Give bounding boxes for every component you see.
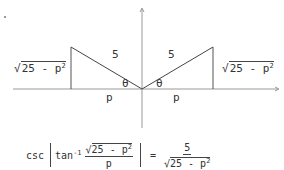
csc-function: csc xyxy=(26,150,44,161)
left-angle-label: θ xyxy=(122,78,129,90)
right-base-label: p xyxy=(173,92,180,104)
result-denominator: √25 - p2 xyxy=(164,155,210,169)
radicand: 25 - p xyxy=(22,62,62,75)
exponent: 2 xyxy=(269,62,273,70)
radicand: 25 - p xyxy=(92,144,128,155)
abs-bar-right xyxy=(140,143,141,167)
exponent: 2 xyxy=(128,143,132,151)
equals-sign: = xyxy=(150,150,156,161)
abs-bar-left xyxy=(50,143,51,167)
exponent: 2 xyxy=(206,157,210,165)
inner-denominator: p xyxy=(106,157,112,169)
exponent: 2 xyxy=(61,62,65,70)
left-height-label: √25 - p2 xyxy=(14,60,66,75)
left-base-label: p xyxy=(106,92,113,104)
inner-numerator: √25 - p2 xyxy=(85,142,133,157)
right-triangle-hypotenuse xyxy=(142,47,213,89)
result-numerator: 5 xyxy=(183,142,191,155)
right-height-label: √25 - p2 xyxy=(222,60,274,75)
sqrt-icon: √ xyxy=(222,62,229,75)
formula: csc tan-1 √25 - p2 p = 5 √25 - p2 xyxy=(26,142,213,168)
tan-label: tan xyxy=(55,150,73,161)
radicand: 25 - p xyxy=(170,158,206,169)
right-angle-label: θ xyxy=(156,78,163,90)
result-fraction: 5 √25 - p2 xyxy=(164,142,210,169)
right-hypotenuse-label: 5 xyxy=(168,49,175,61)
tan-inverse-function: tan-1 xyxy=(55,149,82,161)
left-triangle-hypotenuse xyxy=(71,47,142,89)
left-hypotenuse-label: 5 xyxy=(112,49,119,61)
stray-mark xyxy=(4,16,6,18)
sqrt-icon: √ xyxy=(14,62,21,75)
radicand: 25 - p xyxy=(230,62,270,75)
inner-fraction: √25 - p2 p xyxy=(85,142,133,169)
inverse-exponent: -1 xyxy=(73,149,81,157)
